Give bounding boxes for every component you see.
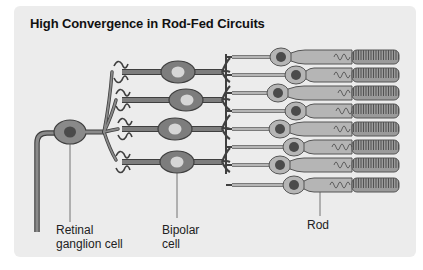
label-line: cell — [162, 237, 199, 251]
bipolar-cell — [114, 58, 230, 83]
label-line: ganglion cell — [56, 237, 123, 251]
rod — [232, 48, 399, 66]
rod — [232, 156, 399, 174]
label-line: Bipolar — [162, 223, 199, 237]
bipolar-cells — [114, 58, 230, 218]
rod — [232, 66, 399, 84]
label-line: Retinal — [56, 223, 123, 237]
rod — [232, 84, 399, 102]
rods — [232, 48, 399, 216]
rod — [232, 102, 399, 120]
label-bipolar-cell: Bipolar cell — [162, 223, 199, 251]
rod-bipolar-synapses — [226, 54, 232, 185]
ganglion-nucleus — [64, 127, 76, 138]
ganglion-cell — [37, 72, 118, 232]
label-rod: Rod — [307, 218, 329, 232]
rod — [232, 120, 399, 138]
bipolar-cell — [118, 115, 230, 140]
label-retinal-ganglion-cell: Retinal ganglion cell — [56, 223, 123, 251]
bipolar-cell — [116, 86, 230, 111]
rod — [232, 138, 399, 156]
bipolar-cell — [116, 148, 230, 173]
rod — [232, 176, 399, 194]
